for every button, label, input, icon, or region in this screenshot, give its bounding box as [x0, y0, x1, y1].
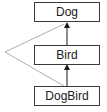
node-dogbird: DogBird — [34, 86, 100, 106]
node-label: Bird — [56, 48, 77, 62]
node-dog: Dog — [34, 2, 100, 22]
node-bird: Bird — [34, 45, 100, 65]
node-label: Dog — [56, 5, 78, 19]
node-label: DogBird — [45, 89, 88, 103]
